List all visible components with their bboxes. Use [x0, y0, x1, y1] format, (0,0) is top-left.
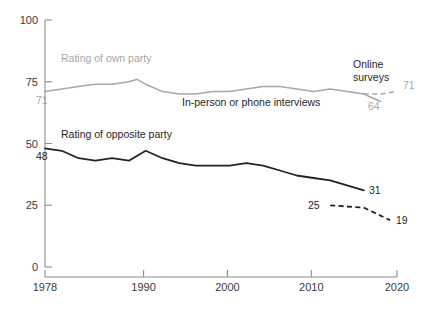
x-tick-label-2010: 2010 [299, 281, 323, 293]
y-tick-label-25: 25 [26, 199, 38, 211]
y-tick-label-75: 75 [26, 76, 38, 88]
annotation-opposite-party-label: Rating of opposite party [61, 128, 173, 140]
series-own-party-phone [45, 79, 364, 94]
x-tick-label-1990: 1990 [131, 281, 155, 293]
value-label-own-start: 71 [36, 94, 48, 106]
chart-canvas: 100 75 50 25 0 1978 1990 2000 2010 2020 … [0, 0, 425, 309]
series-own-party-online [364, 92, 397, 95]
value-label-opp-phone-end: 31 [369, 184, 381, 196]
value-label-own-online-end: 71 [403, 79, 415, 91]
y-tick-label-50: 50 [26, 138, 38, 150]
x-tick-label-2020: 2020 [385, 281, 409, 293]
value-label-opp-online-start: 25 [308, 199, 320, 211]
annotation-own-party-label: Rating of own party [61, 52, 152, 64]
annotation-online-mode-label-line2: surveys [353, 71, 389, 83]
y-tick-label-100: 100 [20, 14, 38, 26]
value-label-opp-start: 48 [36, 150, 48, 162]
line-chart: 100 75 50 25 0 1978 1990 2000 2010 2020 … [0, 0, 425, 309]
series-opposite-party-online [330, 205, 390, 220]
annotation-online-mode-label-line1: Online [353, 58, 384, 70]
series-opposite-party-phone [45, 148, 364, 190]
x-tick-label-1978: 1978 [33, 281, 57, 293]
value-label-own-phone-end: 64 [368, 100, 380, 112]
annotation-interview-mode-label: In-person or phone interviews [182, 96, 320, 108]
x-tick-label-2000: 2000 [215, 281, 239, 293]
value-label-opp-online-end: 19 [396, 214, 408, 226]
y-tick-label-0: 0 [32, 261, 38, 273]
